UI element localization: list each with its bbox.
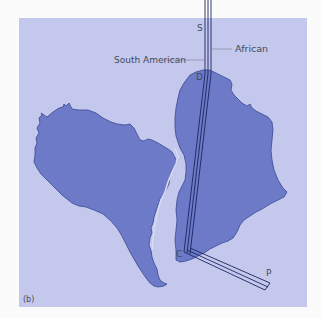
apparent-polar-wander-diagram: S D C P South American African (b) (0, 0, 322, 319)
point-label-d: D (196, 72, 203, 82)
legend-south-american: South American (114, 55, 186, 65)
point-label-p: P (266, 268, 272, 278)
legend-african: African (235, 43, 268, 54)
panel-label: (b) (23, 295, 34, 304)
point-label-c: C (176, 249, 182, 259)
point-label-s: S (197, 23, 203, 33)
